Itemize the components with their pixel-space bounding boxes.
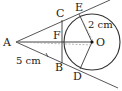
label-radius-2cm: 2 cm bbox=[88, 19, 113, 30]
label-e: E bbox=[75, 1, 83, 14]
center-point-o bbox=[90, 40, 93, 43]
label-c: C bbox=[56, 7, 64, 20]
radius-od bbox=[80, 42, 92, 69]
label-o: O bbox=[96, 36, 105, 49]
label-d: D bbox=[73, 70, 82, 83]
label-f: F bbox=[53, 29, 61, 42]
geometry-diagram: A O E D C B F 2 cm 5 cm bbox=[0, 0, 122, 91]
label-a: A bbox=[2, 36, 12, 49]
label-length-5cm: 5 cm bbox=[16, 55, 41, 66]
label-b: B bbox=[55, 61, 63, 74]
